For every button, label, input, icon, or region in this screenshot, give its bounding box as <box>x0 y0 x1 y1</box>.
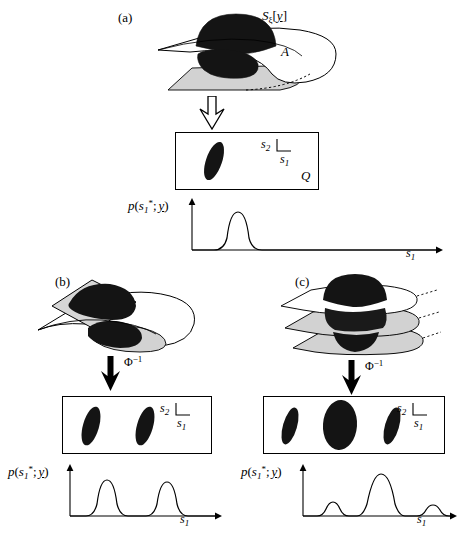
axis-corner-mark <box>176 403 190 415</box>
manifold-c-dash-middle <box>419 312 439 318</box>
phi-main: Φ <box>124 355 133 369</box>
box-blob <box>321 399 358 451</box>
plot-ylabel-semicolon: ; <box>266 464 270 479</box>
panel-c-box: s2 s1 <box>263 396 445 454</box>
arrow-solid-body <box>101 356 120 391</box>
surface-label-bracket-close: ] <box>283 8 287 23</box>
box-axis-s1-sub: 1 <box>285 158 290 168</box>
manifold-c-dash-bottom <box>423 332 441 338</box>
plot-x-axis-arrowhead <box>215 513 222 520</box>
plot-ylabel-paren-close: ) <box>44 464 48 479</box>
plot-ylabel: p(s1*;y) <box>241 464 282 481</box>
panel-c-transform-label: Φ−1 <box>365 358 383 374</box>
plot-ylabel: p(s1*;y) <box>8 464 49 481</box>
panel-c-arrow-solid <box>341 360 363 396</box>
arrow-hollow-body <box>200 96 224 129</box>
plot-curve <box>192 212 438 250</box>
plot-xlabel-sub: 1 <box>185 518 190 528</box>
manifold-c-dash-top <box>417 290 437 296</box>
panel-a-manifold <box>150 6 350 98</box>
box-axis-label-s1: s1 <box>414 416 423 432</box>
plot-ylabel-semicolon: ; <box>153 198 157 213</box>
panel-b-arrow-solid <box>100 356 122 392</box>
panel-b-manifold <box>30 272 210 358</box>
box-corner-label-q: Q <box>301 168 310 184</box>
plot-ylabel-paren-close: ) <box>277 464 281 479</box>
axis-corner-mark <box>277 139 291 151</box>
panel-b-transform-label: Φ−1 <box>124 354 142 370</box>
box-axis-label-s1: s1 <box>177 416 186 432</box>
panel-b-box: s2 s1 <box>62 396 212 454</box>
plot-ylabel: p(s1*;y) <box>128 198 169 215</box>
manifold-c-sphere-cap-top <box>323 274 387 307</box>
plot-xlabel: s1 <box>417 512 426 528</box>
plot-y-axis-arrowhead <box>189 198 196 205</box>
box-blob <box>200 139 228 182</box>
plot-x-axis-arrowhead <box>450 513 457 520</box>
box-axis-s1-sub: 1 <box>419 422 424 432</box>
arrow-solid-body <box>342 360 361 395</box>
axis-corner-mark <box>413 403 427 415</box>
plot-y-axis-arrowhead <box>300 464 307 471</box>
panel-c-plot: p(s1*;y) s1 <box>241 464 467 534</box>
surface-label: Sξ[y] <box>262 8 287 25</box>
panel-b-plot: p(s1*;y) s1 <box>8 464 234 534</box>
panel-a-box-blobs <box>176 133 318 189</box>
box-blob <box>278 406 302 446</box>
box-axis-s2-sub: 2 <box>266 143 271 153</box>
panel-a-arrow-hollow <box>198 96 226 130</box>
plot-xlabel-sub: 1 <box>422 518 427 528</box>
phi-main: Φ <box>365 359 374 373</box>
phi-superscript: −1 <box>133 354 143 364</box>
panel-c-plot-svg <box>297 464 467 522</box>
plot-curve <box>303 474 451 516</box>
box-axis-s1-sub: 1 <box>182 422 187 432</box>
box-axis-label-s1: s1 <box>280 152 289 168</box>
box-axis-s2-sub: 2 <box>165 407 170 417</box>
panel-a-plot: p(s1*;y) s1 <box>128 198 458 268</box>
panel-c-manifold <box>255 270 455 362</box>
panel-a-box: s2 s1 Q <box>175 132 319 190</box>
box-axis-label-s2: s2 <box>397 401 406 417</box>
plot-xlabel: s1 <box>406 246 415 262</box>
figure-root: (a) Sξ[y] A s2 s1 <box>0 0 467 558</box>
box-axis-s2-sub: 2 <box>402 407 407 417</box>
box-axis-label-s2: s2 <box>261 137 270 153</box>
panel-b: (b) Φ−1 s2 s1 <box>0 268 234 558</box>
region-label-a: A <box>281 44 289 60</box>
phi-superscript: −1 <box>374 358 384 368</box>
plot-xlabel: s1 <box>180 512 189 528</box>
plot-ylabel-paren-close: ) <box>164 198 168 213</box>
panel-a-label: (a) <box>118 10 132 26</box>
plot-xlabel-sub: 1 <box>411 252 416 262</box>
box-blob <box>78 405 104 448</box>
panel-a-plot-svg <box>186 198 456 256</box>
plot-y-axis-arrowhead <box>67 464 74 471</box>
panel-b-plot-svg <box>64 464 232 522</box>
panel-a: (a) Sξ[y] A s2 s1 <box>0 0 467 270</box>
box-axis-label-s2: s2 <box>160 401 169 417</box>
panel-c: (c) Φ−1 s2 <box>233 268 467 558</box>
plot-curve <box>70 480 216 516</box>
plot-ylabel-semicolon: ; <box>33 464 37 479</box>
box-blob <box>132 405 158 448</box>
